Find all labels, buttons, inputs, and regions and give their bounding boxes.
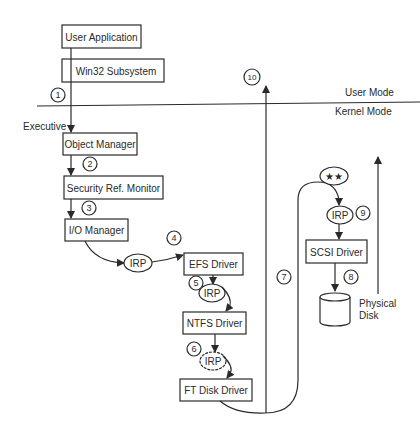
arrow-irp-to-efs: [152, 255, 183, 262]
step-10-circle: 10: [244, 69, 260, 85]
physical-disk-cylinder: [320, 293, 350, 326]
scsi-driver-box: SCSI Driver: [306, 240, 367, 263]
svg-text:3: 3: [86, 203, 91, 213]
svg-text:4: 4: [171, 233, 176, 243]
svg-text:FT Disk Driver: FT Disk Driver: [184, 385, 248, 396]
svg-text:10: 10: [248, 73, 257, 82]
svg-text:EFS Driver: EFS Driver: [189, 259, 239, 270]
io-flow-diagram: User Mode Kernel Mode Executive User App…: [0, 0, 420, 436]
step-7-circle: 7: [277, 270, 291, 284]
svg-text:SCSI Driver: SCSI Driver: [310, 247, 363, 258]
svg-text:6: 6: [191, 344, 196, 354]
step-8-circle: 8: [344, 270, 358, 284]
executive-label: Executive: [23, 121, 67, 132]
svg-text:IRP: IRP: [205, 356, 222, 367]
svg-text:IRP: IRP: [130, 258, 147, 269]
irp-ellipse-4: IRP: [327, 206, 353, 224]
object-manager-box: Object Manager: [63, 133, 137, 155]
svg-text:Win32 Subsystem: Win32 Subsystem: [76, 66, 157, 77]
io-manager-box: I/O Manager: [65, 219, 128, 241]
svg-text:I/O Manager: I/O Manager: [69, 225, 125, 236]
step-9-circle: 9: [356, 206, 370, 220]
svg-text:NTFS Driver: NTFS Driver: [187, 318, 243, 329]
step-2-circle: 2: [83, 157, 97, 171]
svg-text:8: 8: [348, 272, 353, 282]
svg-text:5: 5: [193, 278, 198, 288]
step-1-circle: 1: [51, 88, 65, 102]
efs-driver-box: EFS Driver: [184, 253, 243, 275]
svg-text:IRP: IRP: [332, 210, 349, 221]
svg-text:★★: ★★: [325, 171, 343, 182]
ntfs-driver-box: NTFS Driver: [183, 312, 246, 334]
physical-disk-label-line2: Disk: [359, 310, 379, 321]
security-ref-monitor-box: Security Ref. Monitor: [64, 176, 163, 199]
user-application-box: User Application: [62, 25, 141, 48]
svg-text:Object Manager: Object Manager: [64, 139, 136, 150]
step-4-circle: 4: [167, 231, 181, 245]
irp-ellipse-2: IRP: [199, 284, 225, 302]
step-6-circle: 6: [187, 342, 201, 356]
step-5-circle: 5: [189, 276, 203, 290]
svg-text:7: 7: [281, 272, 286, 282]
step-3-circle: 3: [82, 201, 96, 215]
user-mode-label: User Mode: [345, 87, 394, 98]
svg-text:IRP: IRP: [204, 288, 221, 299]
svg-text:1: 1: [55, 90, 60, 100]
arrow-io-to-irp: [85, 241, 124, 263]
svg-text:9: 9: [360, 208, 365, 218]
svg-text:2: 2: [87, 159, 92, 169]
irp-ellipse-1: IRP: [124, 254, 152, 272]
svg-text:Security Ref. Monitor: Security Ref. Monitor: [67, 183, 161, 194]
svg-text:User Application: User Application: [65, 32, 137, 43]
stars-ellipse: ★★: [320, 167, 348, 185]
ft-disk-driver-box: FT Disk Driver: [180, 379, 252, 401]
physical-disk-label-line1: Physical: [359, 298, 396, 309]
win32-subsystem-box: Win32 Subsystem: [62, 59, 164, 82]
irp-ellipse-3: IRP: [200, 352, 226, 370]
kernel-mode-label: Kernel Mode: [335, 106, 392, 117]
